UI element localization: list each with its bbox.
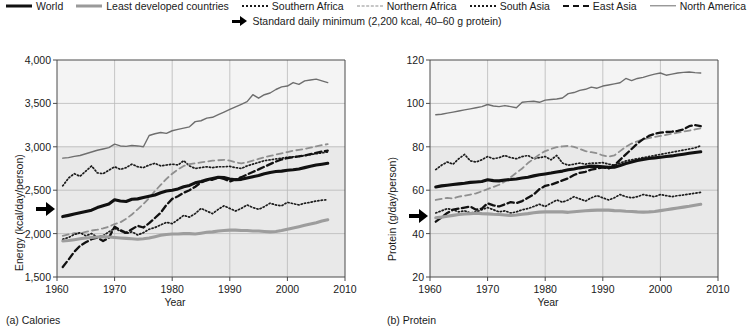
xtick-labels-calories: 1960 1970 1980 1990 2000 2010 (45, 283, 357, 295)
ytick-label: 40 (412, 228, 424, 240)
figure-food-supply: World Least developed countries Southern… (0, 0, 747, 331)
line-style-solid-thin-icon (650, 1, 676, 11)
xtick-label: 1990 (591, 283, 615, 295)
reference-arrow-protein (409, 209, 429, 223)
ytick-label: 4,000 (25, 54, 51, 66)
xtick-label: 1980 (534, 283, 558, 295)
xtick-label: 1990 (218, 283, 242, 295)
xtick-label: 1970 (476, 283, 500, 295)
legend-item-north-america: North America (650, 0, 747, 12)
xtick-label: 2000 (649, 283, 673, 295)
xtick-label: 2000 (276, 283, 300, 295)
ytick-label: 20 (412, 271, 424, 283)
x-axis-label-protein: Year (373, 296, 723, 308)
chart-legend: World Least developed countries Southern… (0, 0, 747, 46)
reference-arrow-calories (36, 202, 56, 216)
legend-item-south-asia: South Asia (470, 0, 550, 12)
y-axis-label-protein: Protein (g/day/person) (386, 157, 398, 261)
xtick-label: 1960 (418, 283, 442, 295)
x-axis-label-calories: Year (0, 296, 350, 308)
ytick-label: 3,000 (25, 141, 51, 153)
ytick-label: 60 (412, 184, 424, 196)
panel-protein: 120 100 80 60 40 20 (373, 46, 747, 331)
ytick-label: 2,500 (25, 184, 51, 196)
legend-label-east-asia: East Asia (593, 0, 637, 12)
legend-item-northern-africa: Northern Africa (357, 0, 457, 12)
legend-label-standard-daily-minimum: Standard daily minimum (2,200 kcal, 40–6… (252, 15, 501, 27)
ytick-label: 3,500 (25, 97, 51, 109)
legend-label-north-america: North America (680, 0, 747, 12)
legend-row-series: World Least developed countries Southern… (0, 0, 747, 12)
legend-row-annotation: Standard daily minimum (2,200 kcal, 40–6… (0, 15, 747, 27)
plot-protein: 120 100 80 60 40 20 (373, 46, 747, 296)
right-arrow-icon (232, 16, 248, 26)
ytick-label: 120 (406, 54, 424, 66)
xtick-labels-protein: 1960 1970 1980 1990 2000 2010 (418, 283, 730, 295)
line-style-dotted-icon (242, 1, 268, 11)
legend-item-world: World (6, 0, 63, 12)
ytick-label: 1,500 (25, 271, 51, 283)
panel-caption-calories: (a) Calories (6, 314, 60, 326)
line-style-dashed-grey-icon (357, 1, 383, 11)
legend-item-standard-daily-minimum: Standard daily minimum (2,200 kcal, 40–6… (232, 15, 501, 27)
line-style-dashed-dark-icon (563, 1, 589, 11)
legend-label-least-developed-countries: Least developed countries (106, 0, 229, 12)
panel-caption-protein: (b) Protein (387, 314, 436, 326)
xtick-label: 1970 (103, 283, 127, 295)
ytick-labels-protein: 120 100 80 60 40 20 (406, 54, 424, 283)
y-axis-label-calories: Energy (kcal/day/person) (13, 154, 25, 271)
ytick-labels-calories: 4,000 3,500 3,000 2,500 2,000 1,500 (25, 54, 51, 283)
ytick-label: 2,000 (25, 228, 51, 240)
xtick-label: 1980 (161, 283, 185, 295)
legend-item-east-asia: East Asia (563, 0, 637, 12)
ytick-label: 100 (406, 97, 424, 109)
xtick-label: 2010 (706, 283, 730, 295)
line-style-dotted-icon (470, 1, 496, 11)
line-style-solid-thick-icon (6, 1, 32, 11)
line-style-solid-grey-icon (76, 1, 102, 11)
legend-label-world: World (36, 0, 63, 12)
xtick-label: 1960 (45, 283, 69, 295)
panel-calories: 4,000 3,500 3,000 2,500 2,000 1,500 (0, 46, 374, 331)
plot-calories: 4,000 3,500 3,000 2,500 2,000 1,500 (0, 46, 374, 296)
ytick-label: 80 (412, 141, 424, 153)
legend-label-south-asia: South Asia (500, 0, 550, 12)
xtick-label: 2010 (333, 283, 357, 295)
legend-item-least-developed-countries: Least developed countries (76, 0, 229, 12)
legend-item-southern-africa: Southern Africa (242, 0, 344, 12)
legend-label-southern-africa: Southern Africa (272, 0, 344, 12)
legend-label-northern-africa: Northern Africa (387, 0, 457, 12)
